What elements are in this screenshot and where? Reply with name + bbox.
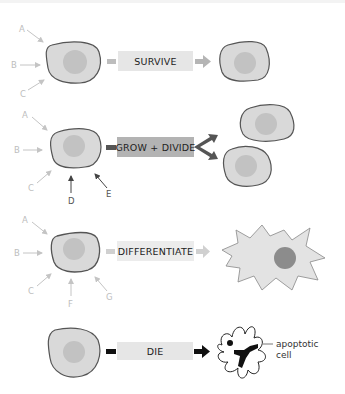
nuclear-fragment [227, 340, 233, 346]
signal-label-g: G [106, 292, 113, 302]
cropped-text-strip [0, 0, 345, 3]
apoptotic-label-line1: apoptotic [276, 339, 319, 349]
signal-arrow-g [95, 277, 107, 291]
action-label-differentiate: DIFFERENTIATE [118, 246, 194, 257]
arrow-tail [106, 349, 116, 354]
nucleus [63, 238, 85, 260]
arrow-head [194, 345, 210, 358]
signal-label-b: B [11, 60, 17, 70]
signal-label-f: F [68, 299, 73, 309]
signal-arrow-a [27, 30, 43, 42]
signal-arrow-c [37, 171, 51, 183]
row-grow-divide: A B C D E GROW + DIVIDE [14, 105, 294, 206]
differentiated-cell [222, 225, 325, 290]
action-label-grow-divide: GROW + DIVIDE [115, 142, 195, 153]
signal-label-c: C [20, 89, 26, 99]
arrow-tail [107, 59, 116, 64]
signal-label-e: E [106, 189, 111, 199]
nucleus [63, 50, 87, 74]
forked-arrow [194, 134, 218, 160]
row-die: DIE apoptotic cell [48, 327, 318, 378]
nucleus [63, 135, 85, 157]
signal-arrow-c [37, 274, 51, 286]
nucleus [255, 113, 277, 135]
signal-label-a: A [22, 215, 28, 225]
row-differentiate: A B C F G DIFFERENTIATE [14, 215, 325, 309]
nucleus [274, 247, 296, 269]
nucleus [63, 341, 85, 363]
arrow-tail [106, 249, 115, 254]
signal-arrow-c [28, 80, 44, 90]
signal-arrow-a [32, 222, 47, 234]
action-label-die: DIE [147, 346, 164, 357]
signal-label-a: A [19, 24, 25, 34]
arrow-head [195, 55, 211, 68]
row-survive: A B C SURVIVE [11, 24, 269, 99]
signal-arrow-a [32, 117, 47, 130]
nucleus [234, 52, 256, 74]
signal-arrow-e [95, 174, 107, 188]
signal-label-c: C [28, 183, 34, 193]
nucleus [235, 155, 257, 177]
arrow-head [196, 245, 210, 258]
signal-label-b: B [14, 145, 20, 155]
signal-label-a: A [22, 110, 28, 120]
signal-label-b: B [14, 248, 20, 258]
signal-label-c: C [28, 286, 34, 296]
cell-fate-diagram: A B C SURVIVE A B C D E GROW + DIVIDE [0, 0, 345, 394]
signal-label-d: D [68, 196, 75, 206]
action-label-survive: SURVIVE [134, 56, 176, 67]
apoptotic-label-line2: cell [276, 350, 292, 360]
